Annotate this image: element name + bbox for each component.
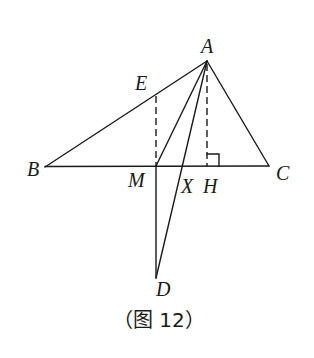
segment-AM bbox=[156, 61, 207, 166]
label-E: E bbox=[134, 72, 147, 94]
label-C: C bbox=[276, 162, 290, 184]
label-B: B bbox=[27, 158, 39, 180]
label-H: H bbox=[202, 175, 219, 197]
segment-BC bbox=[45, 166, 269, 167]
label-M: M bbox=[127, 169, 146, 191]
label-D: D bbox=[155, 278, 171, 300]
segment-AB bbox=[45, 61, 207, 167]
geometry-figure: A B C E M X H D （图 12） bbox=[0, 0, 314, 358]
figure-caption: （图 12） bbox=[113, 308, 205, 332]
label-A: A bbox=[199, 35, 214, 57]
segment-AC bbox=[207, 61, 269, 166]
right-angle-marker bbox=[207, 154, 219, 166]
label-X: X bbox=[180, 175, 194, 197]
segment-AD bbox=[156, 61, 207, 278]
